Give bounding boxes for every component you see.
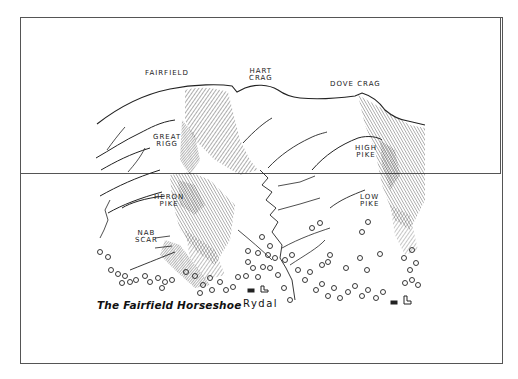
illustration-border-frame — [20, 17, 503, 364]
